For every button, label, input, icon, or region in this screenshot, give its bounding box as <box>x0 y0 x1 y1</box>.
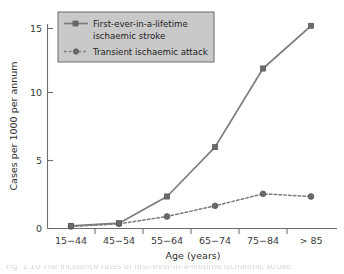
x-tick-label-3: 65−74 <box>199 235 231 246</box>
y-tick-label-5: 5 <box>36 155 42 166</box>
data-point <box>308 23 313 28</box>
line-chart: 0 5 10 15 Cases per 1000 per annum 15−44… <box>0 0 344 274</box>
legend-label-tia: Transient ischaemic attack <box>92 47 208 57</box>
series-2-line <box>71 194 311 227</box>
data-point <box>260 66 265 71</box>
y-axis-title: Cases per 1000 per annum <box>8 61 19 190</box>
data-point <box>164 194 169 199</box>
y-tick-marks <box>48 29 54 229</box>
legend-label-stroke-line2: ischaemic stroke <box>93 31 165 41</box>
y-tick-label-15: 15 <box>30 23 42 34</box>
legend-label-stroke-line1: First-ever-in-a-lifetime <box>93 19 188 29</box>
x-tick-label-5: > 85 <box>299 235 322 246</box>
data-point <box>308 194 314 200</box>
y-tick-label-10: 10 <box>30 87 42 98</box>
data-point <box>212 203 218 209</box>
legend-swatch-square-marker <box>73 21 78 26</box>
data-point <box>212 145 217 150</box>
data-point <box>116 221 121 226</box>
legend: First-ever-in-a-lifetime ischaemic strok… <box>58 12 214 62</box>
data-point <box>260 191 266 197</box>
x-tick-label-4: 75−84 <box>247 235 279 246</box>
data-point <box>68 223 73 228</box>
x-tick-marks <box>95 229 287 235</box>
x-tick-label-2: 55−64 <box>151 235 183 246</box>
data-point <box>164 214 170 220</box>
x-tick-label-0: 15−44 <box>55 235 87 246</box>
y-tick-label-0: 0 <box>36 223 42 234</box>
x-tick-label-1: 45−54 <box>103 235 135 246</box>
y-axis-group: 0 5 10 15 Cases per 1000 per annum <box>8 23 53 234</box>
figure-container: 0 5 10 15 Cases per 1000 per annum 15−44… <box>0 0 344 274</box>
x-axis-title: Age (years) <box>166 250 221 261</box>
x-axis-group: 15−44 45−54 55−64 65−74 75−84 > 85 Age (… <box>48 229 338 262</box>
legend-swatch-circle-marker <box>73 49 78 54</box>
